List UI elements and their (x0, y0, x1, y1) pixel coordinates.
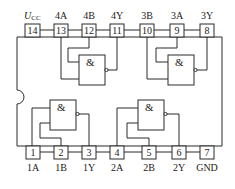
wire-1a (32, 108, 50, 146)
pin-12: 12 (82, 24, 96, 37)
wire-2y (167, 114, 179, 146)
pin-13: 13 (54, 24, 68, 37)
label-2b: 2B (143, 162, 155, 173)
wire-1y (79, 114, 89, 146)
pin-4: 4 (110, 146, 124, 159)
label-ucc: UCC (24, 10, 41, 22)
svg-text:14: 14 (28, 25, 38, 36)
svg-text:5: 5 (147, 147, 152, 158)
label-4a: 4A (55, 10, 68, 21)
svg-text:3: 3 (87, 147, 92, 158)
pin-5: 5 (142, 146, 156, 159)
gate-2-inverter-bubble (164, 112, 167, 115)
label-3b: 3B (141, 10, 153, 21)
wire-3b (147, 36, 168, 79)
label-3a: 3A (171, 10, 184, 21)
label-2y: 2Y (173, 162, 185, 173)
svg-text:10: 10 (142, 25, 152, 36)
pin-1: 1 (26, 146, 40, 159)
gate-1-inverter-bubble (76, 112, 79, 115)
label-1b: 1B (55, 162, 67, 173)
gate-4-symbol: & (86, 56, 95, 68)
pin-6: 6 (172, 146, 186, 159)
pin-7: 7 (200, 146, 214, 159)
wire-4y (108, 36, 117, 70)
svg-text:12: 12 (84, 25, 94, 36)
pin-10: 10 (140, 24, 154, 37)
svg-text:8: 8 (205, 25, 210, 36)
pin-14: 14 (25, 24, 40, 37)
wire-4a (61, 36, 79, 79)
pin-9: 9 (170, 24, 184, 37)
label-1y: 1Y (83, 162, 95, 173)
pin-11: 11 (110, 24, 124, 37)
pin-3: 3 (82, 146, 96, 159)
gate-2-symbol: & (145, 101, 154, 113)
svg-text:9: 9 (175, 25, 180, 36)
gate-4-inverter-bubble (105, 68, 108, 71)
svg-text:4: 4 (115, 147, 120, 158)
gate-3-inverter-bubble (194, 68, 197, 71)
label-gnd: GND (196, 162, 218, 173)
svg-text:13: 13 (56, 25, 66, 36)
pin-2: 2 (54, 146, 68, 159)
svg-text:11: 11 (112, 25, 122, 36)
wire-3y (197, 36, 207, 70)
gate-3-symbol: & (175, 56, 184, 68)
pin-8: 8 (200, 24, 214, 37)
label-2a: 2A (111, 162, 124, 173)
svg-text:6: 6 (177, 147, 182, 158)
label-4y: 4Y (111, 10, 123, 21)
svg-text:1: 1 (31, 147, 36, 158)
label-1a: 1A (27, 162, 40, 173)
chip-body (17, 37, 222, 146)
svg-text:2: 2 (59, 147, 64, 158)
label-3y: 3Y (201, 10, 213, 21)
ic-pinout-diagram: & & & & 14 13 12 11 10 9 (0, 0, 235, 189)
gate-1-symbol: & (57, 101, 66, 113)
svg-text:7: 7 (205, 147, 210, 158)
label-4b: 4B (83, 10, 95, 21)
